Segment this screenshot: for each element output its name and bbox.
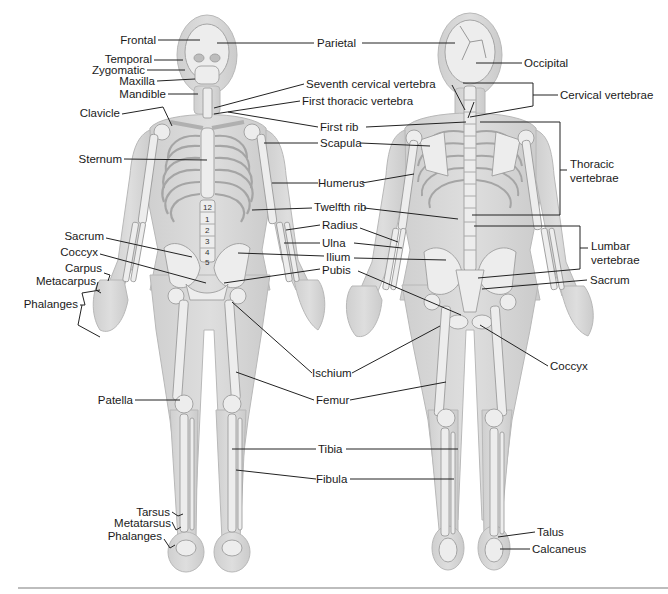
label-coccyx-posterior: Coccyx bbox=[550, 360, 588, 373]
label-talus: Talus bbox=[537, 526, 564, 539]
label-clavicle: Clavicle bbox=[60, 107, 120, 120]
label-seventh-cervical-vertebra: Seventh cervical vertebra bbox=[306, 78, 436, 91]
label-first-thoracic-vertebra: First thoracic vertebra bbox=[302, 95, 413, 108]
vertebra-number-l1: 1 bbox=[205, 215, 209, 224]
label-radius: Radius bbox=[322, 219, 358, 232]
label-thoracic-vertebrae-line2: vertebrae bbox=[570, 172, 619, 185]
label-scapula: Scapula bbox=[320, 137, 362, 150]
label-phalanges-foot: Phalanges bbox=[90, 530, 162, 543]
label-maxilla: Maxilla bbox=[100, 75, 155, 88]
label-lumbar-vertebrae-line1: Lumbar bbox=[591, 240, 630, 253]
label-metacarpus: Metacarpus bbox=[20, 275, 96, 288]
vertebra-number-l4: 4 bbox=[205, 248, 209, 257]
bottom-divider bbox=[18, 587, 668, 589]
label-first-rib: First rib bbox=[320, 121, 358, 134]
skeleton-diagram: Frontal Temporal Zygomatic Maxilla Mandi… bbox=[0, 0, 668, 594]
label-ilium: Ilium bbox=[326, 251, 350, 264]
label-tibia: Tibia bbox=[318, 443, 343, 456]
label-metatarsus: Metatarsus bbox=[100, 517, 171, 530]
label-pubis: Pubis bbox=[322, 264, 351, 277]
label-twelfth-rib: Twelfth rib bbox=[314, 201, 366, 214]
vertebra-number-l5: 5 bbox=[205, 258, 209, 267]
vertebra-number-l2: 2 bbox=[205, 226, 209, 235]
label-patella: Patella bbox=[80, 394, 133, 407]
vertebra-number-t12: 12 bbox=[203, 203, 212, 212]
label-sternum: Sternum bbox=[60, 153, 122, 166]
label-sacrum-posterior: Sacrum bbox=[590, 274, 630, 287]
label-occipital: Occipital bbox=[524, 57, 568, 70]
label-ulna: Ulna bbox=[322, 237, 346, 250]
label-humerus: Humerus bbox=[318, 177, 365, 190]
label-femur: Femur bbox=[316, 394, 349, 407]
label-mandible: Mandible bbox=[100, 88, 166, 101]
vertebra-number-l3: 3 bbox=[205, 237, 209, 246]
label-fibula: Fibula bbox=[316, 473, 347, 486]
label-ischium: Ischium bbox=[312, 367, 352, 380]
label-thoracic-vertebrae-line1: Thoracic bbox=[570, 158, 614, 171]
label-coccyx-anterior: Coccyx bbox=[50, 246, 98, 259]
label-parietal: Parietal bbox=[317, 37, 356, 50]
label-phalanges-hand: Phalanges bbox=[8, 298, 78, 311]
label-lumbar-vertebrae-line2: vertebrae bbox=[591, 254, 640, 267]
label-calcaneus: Calcaneus bbox=[532, 543, 586, 556]
label-carpus: Carpus bbox=[50, 262, 102, 275]
label-frontal: Frontal bbox=[96, 34, 156, 47]
label-cervical-vertebrae: Cervical vertebrae bbox=[560, 89, 653, 102]
label-sacrum-anterior: Sacrum bbox=[50, 230, 104, 243]
